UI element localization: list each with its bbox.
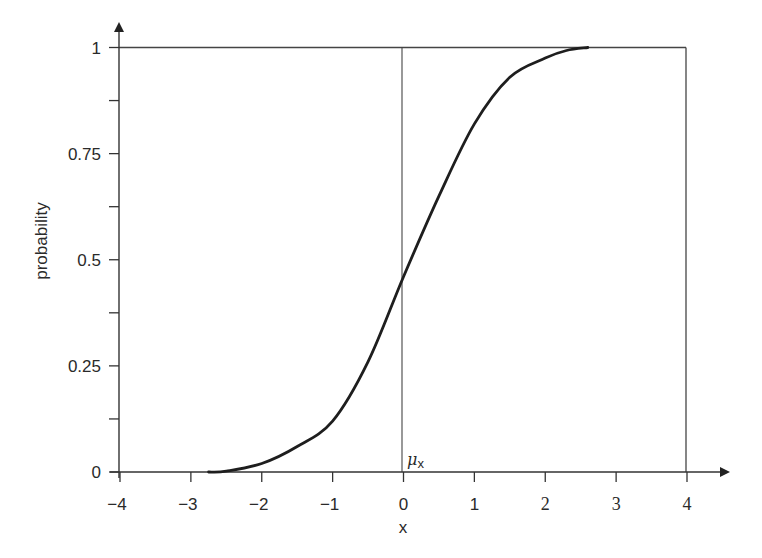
- x-tick-label: 1: [470, 495, 479, 514]
- y-tick-label: 1: [92, 39, 101, 58]
- x-tick-label: −4: [107, 495, 126, 514]
- x-axis-ticks: −4−3−2−101234: [107, 472, 691, 514]
- x-axis-title: x: [399, 518, 408, 537]
- mean-label: μx: [407, 450, 424, 471]
- y-tick-label: 0.25: [68, 357, 101, 376]
- x-tick-label: 4: [683, 494, 692, 514]
- y-tick-label: 0: [92, 463, 101, 482]
- y-axis-title: probability: [32, 202, 51, 280]
- y-axis-ticks: 00.250.50.751: [68, 39, 119, 483]
- mu-subscript: x: [417, 456, 424, 471]
- mu-symbol: μ: [407, 450, 417, 469]
- cdf-chart: −4−3−2−101234 00.250.50.751 x probabilit…: [0, 0, 762, 558]
- y-tick-label: 0.5: [77, 251, 101, 270]
- x-tick-label: −3: [178, 495, 197, 514]
- x-tick-label: −2: [249, 495, 268, 514]
- x-tick-label: 0: [399, 495, 408, 514]
- x-tick-label: 3: [612, 494, 621, 514]
- x-tick-label: −1: [320, 495, 339, 514]
- y-tick-label: 0.75: [68, 145, 101, 164]
- x-tick-label: 2: [541, 494, 550, 514]
- cdf-curve: [209, 48, 588, 473]
